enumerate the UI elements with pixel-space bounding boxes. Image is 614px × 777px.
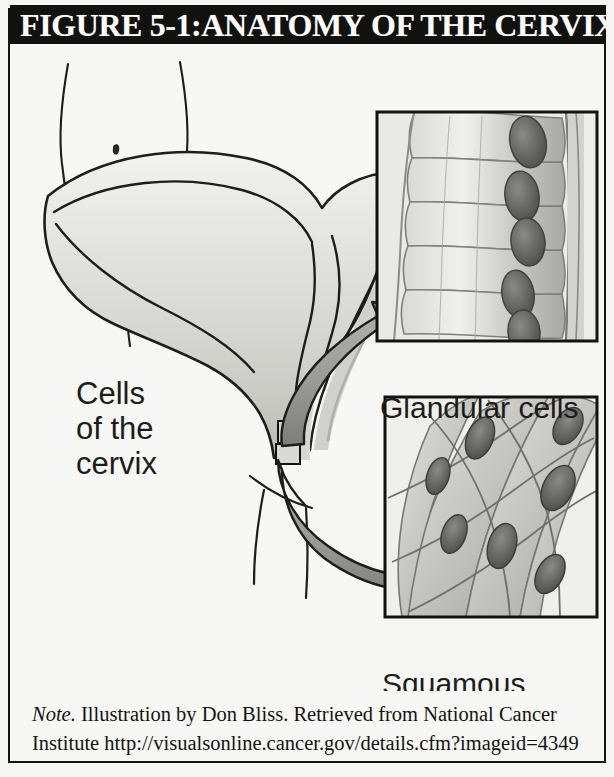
squamous-label-line1: Squamous: [382, 666, 569, 691]
squamous-epithelial-cells-label: Squamous epithelial cells: [382, 666, 569, 691]
squamous-cells-inset: [385, 392, 604, 617]
figure-caption: Note. Illustration by Don Bliss. Retriev…: [10, 700, 606, 758]
caption-note-prefix: Note.: [32, 703, 76, 725]
figure-container: FIGURE 5-1:ANATOMY OF THE CERVIX: [0, 0, 614, 777]
anatomy-illustration: Cells of the cervix Glandular cells Squa…: [10, 46, 604, 691]
cells-label-line2: of the: [76, 411, 157, 446]
caption-body: Illustration by Don Bliss. Retrieved fro…: [32, 703, 579, 754]
glandular-cells-inset: [377, 111, 597, 356]
cells-label-line3: cervix: [76, 446, 157, 481]
glandular-cells-label: Glandular cells: [380, 391, 578, 425]
figure-title-bar: FIGURE 5-1:ANATOMY OF THE CERVIX: [10, 5, 606, 44]
figure-title: FIGURE 5-1:ANATOMY OF THE CERVIX: [20, 6, 606, 44]
cells-label-line1: Cells: [76, 376, 157, 411]
cells-of-the-cervix-label: Cells of the cervix: [76, 376, 157, 481]
